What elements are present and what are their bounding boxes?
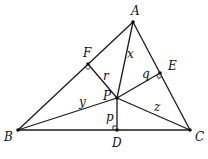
triangle-diagram: A B C D E F P x y z p q r [0,0,208,159]
point-F [86,62,90,66]
point-D [115,128,119,132]
label-A: A [130,4,140,18]
label-r: r [103,69,110,83]
point-C [188,128,192,132]
label-D: D [111,136,122,150]
point-B [16,128,20,132]
point-A [131,20,135,24]
label-E: E [167,59,177,73]
segment-PE [117,73,160,98]
label-p: p [106,110,114,124]
label-z: z [153,100,161,114]
right-angle-mark-F [85,67,90,70]
point-E [158,71,162,75]
label-y: y [78,95,86,109]
label-x: x [127,47,134,61]
label-B: B [3,130,13,144]
label-P: P [102,89,112,103]
side-AB [18,22,133,130]
point-P [115,96,119,100]
label-q: q [142,67,150,81]
label-C: C [195,130,204,144]
label-F: F [82,46,92,60]
